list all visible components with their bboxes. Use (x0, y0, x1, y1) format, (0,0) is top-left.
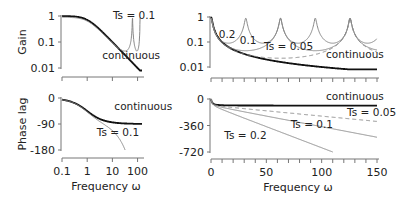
y-tick-label: 0.1 (187, 36, 205, 49)
series-ts-0-1 (62, 17, 140, 51)
annotation: 0.1 (240, 34, 257, 46)
y-tick-label: 0 (48, 92, 55, 105)
annotation: Ts = 0.1 (96, 126, 139, 138)
x-tick-label: 10 (105, 165, 119, 178)
x-axis-label: Frequency ω (71, 180, 141, 193)
y-tick-label: 1 (197, 11, 204, 24)
y-axis-label: Phase lag (16, 97, 29, 150)
annotation: Ts = 0.05 (346, 106, 396, 118)
y-tick-label: -360 (179, 120, 204, 133)
y-axis-label: Gain (16, 29, 29, 54)
annotation: Ts = 0.05 (263, 40, 313, 52)
x-tick-label: 150 (367, 166, 388, 179)
x-axis-label: Frequency ω (263, 181, 333, 194)
gain-linear-plot: 10.10.010.20.1Ts = 0.05continuous (180, 11, 384, 82)
annotation: continuous (102, 49, 160, 61)
x-tick-label: 0 (208, 166, 215, 179)
x-tick-label: 100 (127, 165, 148, 178)
y-tick-label: 0.01 (180, 61, 205, 74)
phase-linear-plot: 0-360-720050100150Frequency ωcontinuousT… (179, 90, 396, 194)
annotation: continuous (114, 100, 172, 112)
bode-figure: 10.10.01GainTs = 0.1continuous 0-90-1800… (0, 0, 401, 202)
x-tick-label: 1 (84, 165, 91, 178)
annotation: Ts = 0.1 (112, 9, 155, 21)
annotation: Ts = 0.1 (290, 118, 333, 130)
phase-log-plot: 0-90-1800.1110100Phase lagFrequency ωcon… (16, 92, 172, 193)
y-tick-label: -180 (30, 144, 55, 157)
annotation: continuous (326, 90, 384, 102)
y-tick-label: 1 (48, 10, 55, 23)
annotation: Ts = 0.2 (223, 129, 266, 141)
x-tick-label: 100 (311, 166, 332, 179)
x-tick-label: 0.1 (53, 165, 71, 178)
x-tick-label: 50 (259, 166, 273, 179)
y-tick-label: 0.01 (31, 62, 56, 75)
annotation: continuous (326, 48, 384, 60)
y-tick-label: -90 (37, 118, 55, 131)
y-tick-label: 0.1 (38, 36, 56, 49)
y-tick-label: 0 (197, 93, 204, 106)
gain-log-plot: 10.10.01GainTs = 0.1continuous (16, 9, 160, 81)
annotation: 0.2 (219, 28, 236, 40)
y-tick-label: -720 (179, 146, 204, 159)
